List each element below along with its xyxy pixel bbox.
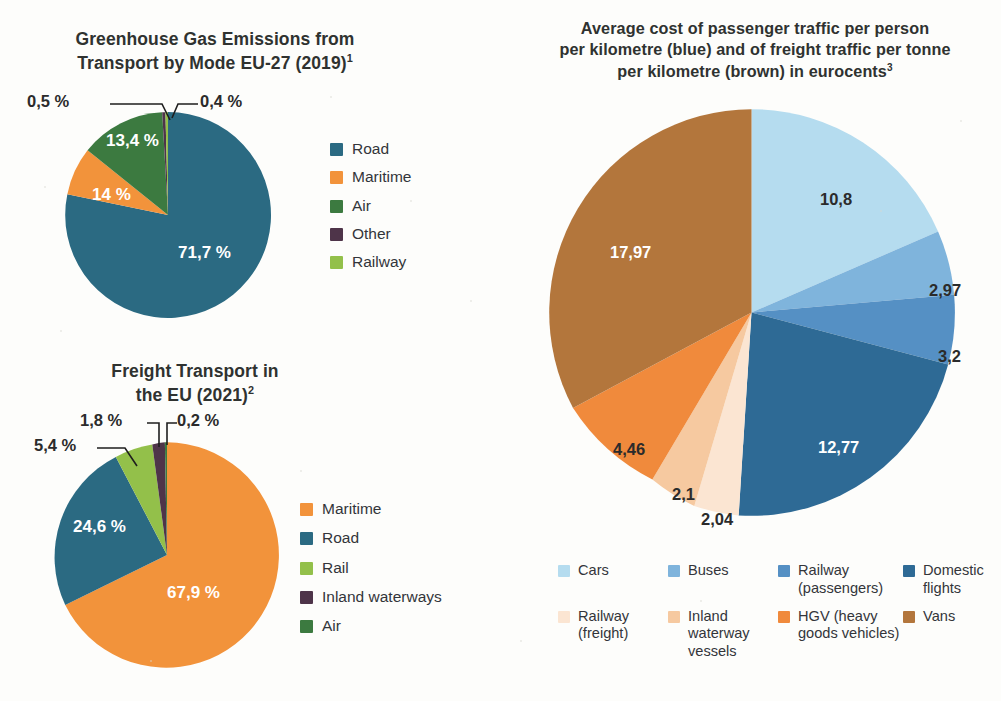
ghg-title-line-1: Greenhouse Gas Emissions from (75, 29, 354, 49)
ghg-title-footnote-marker: 1 (347, 52, 353, 64)
legend-label-maritime: Maritime (322, 500, 381, 518)
legend-label-cars: Cars (578, 562, 609, 580)
legend-item-road[interactable]: Road (330, 140, 411, 158)
legend-item-vans[interactable]: Vans (903, 608, 998, 661)
freight-chart-title: Freight Transport in the EU (2021)2 (40, 360, 350, 407)
legend-label-hgv: HGV (heavy goods vehicles) (798, 608, 903, 644)
cost-legend: Cars Buses Railway (passengers) Domestic… (558, 562, 998, 661)
legend-label-railway-freight: Railway (freight) (578, 608, 668, 644)
freight-leader-air (163, 419, 187, 451)
paper-speckle (700, 600, 702, 602)
legend-label-other: Other (352, 225, 391, 243)
cost-title-line-2: per kilometre (blue) and of freight traf… (559, 40, 950, 58)
paper-speckle (960, 120, 962, 122)
legend-swatch-railway-freight (558, 611, 570, 623)
ghg-chart-panel: Greenhouse Gas Emissions from Transport … (0, 0, 500, 330)
legend-swatch-maritime (330, 171, 343, 184)
legend-swatch-railway (330, 256, 343, 269)
paper-speckle (150, 660, 152, 662)
freight-title-footnote-marker: 2 (248, 384, 254, 396)
legend-label-vans: Vans (923, 608, 955, 626)
legend-swatch-other (330, 228, 343, 241)
legend-swatch-inland-waterway-vessels (668, 611, 680, 623)
ghg-pie (63, 110, 273, 320)
legend-item-buses[interactable]: Buses (668, 562, 778, 598)
legend-label-inland-waterways: Inland waterways (322, 588, 442, 606)
cost-chart-title: Average cost of passenger traffic per pe… (520, 18, 990, 83)
paper-speckle (300, 470, 302, 472)
legend-item-rail[interactable]: Rail (300, 559, 442, 577)
legend-item-inland-waterways[interactable]: Inland waterways (300, 588, 442, 606)
cost-title-line-3: per kilometre (brown) in eurocents (617, 62, 887, 80)
legend-label-railway: Railway (352, 253, 406, 271)
legend-label-domestic-flights: Domestic flights (923, 562, 998, 598)
cost-chart-panel: Average cost of passenger traffic per pe… (500, 0, 1001, 701)
cost-title-footnote-marker: 3 (887, 62, 893, 73)
freight-pie (52, 440, 282, 670)
legend-item-other[interactable]: Other (330, 225, 411, 243)
freight-leader-rail (97, 444, 147, 470)
legend-swatch-road (330, 143, 343, 156)
legend-label-maritime: Maritime (352, 168, 411, 186)
ghg-leader-railway (170, 100, 210, 124)
paper-speckle (44, 186, 46, 188)
legend-label-rail: Rail (322, 559, 349, 577)
ghg-chart-title: Greenhouse Gas Emissions from Transport … (30, 28, 400, 75)
legend-item-railway-passengers[interactable]: Railway (passengers) (778, 562, 903, 598)
freight-callout-inland-waterways: 1,8 % (80, 411, 122, 430)
legend-swatch-rail (300, 562, 313, 575)
legend-label-air: Air (352, 197, 371, 215)
legend-label-buses: Buses (688, 562, 729, 580)
legend-item-maritime[interactable]: Maritime (330, 168, 411, 186)
legend-item-railway-freight[interactable]: Railway (freight) (558, 608, 668, 661)
legend-swatch-road (300, 532, 313, 545)
legend-swatch-inland-waterways (300, 591, 313, 604)
legend-item-maritime[interactable]: Maritime (300, 500, 442, 518)
legend-swatch-maritime (300, 503, 313, 516)
paper-speckle (620, 250, 622, 252)
legend-swatch-air (330, 200, 343, 213)
legend-item-cars[interactable]: Cars (558, 562, 668, 598)
legend-label-road: Road (352, 140, 389, 158)
legend-item-railway[interactable]: Railway (330, 253, 411, 271)
paper-speckle (880, 210, 882, 212)
legend-item-domestic-flights[interactable]: Domestic flights (903, 562, 998, 598)
paper-speckle (410, 200, 412, 202)
legend-swatch-domestic-flights (903, 565, 915, 577)
legend-swatch-hgv (778, 611, 790, 623)
freight-callout-rail: 5,4 % (34, 436, 76, 455)
ghg-callout-other: 0,5 % (27, 92, 69, 111)
paper-speckle (520, 640, 522, 642)
legend-swatch-cars (558, 565, 570, 577)
paper-speckle (60, 330, 62, 332)
freight-title-line-2: the EU (2021) (136, 385, 248, 405)
legend-label-inland-waterway-vessels: Inland waterway vessels (688, 608, 778, 661)
legend-item-air[interactable]: Air (330, 197, 411, 215)
legend-swatch-buses (668, 565, 680, 577)
paper-speckle (470, 300, 472, 302)
cost-pie (544, 105, 959, 520)
legend-swatch-vans (903, 611, 915, 623)
legend-item-road[interactable]: Road (300, 529, 442, 547)
legend-label-railway-passengers: Railway (passengers) (798, 562, 903, 598)
legend-label-road: Road (322, 529, 359, 547)
paper-speckle (330, 96, 332, 98)
legend-item-hgv[interactable]: HGV (heavy goods vehicles) (778, 608, 903, 661)
legend-swatch-air (300, 620, 313, 633)
ghg-legend: Road Maritime Air Other Railway (330, 140, 411, 281)
cost-title-line-1: Average cost of passenger traffic per pe… (581, 19, 929, 37)
freight-title-line-1: Freight Transport in (111, 361, 278, 381)
freight-legend: Maritime Road Rail Inland waterways Air (300, 500, 442, 646)
legend-label-air: Air (322, 617, 341, 635)
legend-swatch-railway-passengers (778, 565, 790, 577)
infographic-page: Greenhouse Gas Emissions from Transport … (0, 0, 1001, 701)
legend-item-inland-waterway-vessels[interactable]: Inland waterway vessels (668, 608, 778, 661)
ghg-title-line-2: Transport by Mode EU-27 (2019) (77, 53, 346, 73)
legend-item-air[interactable]: Air (300, 617, 442, 635)
